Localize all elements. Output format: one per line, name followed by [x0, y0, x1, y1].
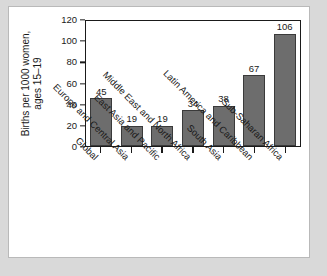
bar-value-label: 106: [277, 22, 293, 32]
y-tick-label: 60: [66, 79, 77, 89]
x-label-slot: Sub-Saharan Africa: [270, 153, 300, 253]
y-tick-label: 120: [61, 15, 77, 25]
x-label-slot: South Asia: [209, 153, 239, 253]
x-label-slot: Middle East and North Africa: [178, 153, 208, 253]
bar: [274, 34, 296, 146]
chart-page: { "chart_data": { "type": "bar", "title"…: [0, 0, 327, 276]
x-label-slot: Europe and Central Asia: [116, 153, 146, 253]
x-label-slot: East Asia and Pacific: [147, 153, 177, 253]
x-label-slot: Global: [85, 153, 115, 253]
y-axis: 020406080100120: [9, 20, 85, 147]
y-tick-label: 80: [66, 58, 77, 68]
y-tick-label: 100: [61, 36, 77, 46]
bar-slot: 106: [270, 21, 300, 146]
x-axis-labels: GlobalEurope and Central AsiaEast Asia a…: [85, 153, 301, 253]
bar-value-label: 67: [249, 64, 260, 74]
chart-card: Births per 1000 women, ages 15–19 020406…: [8, 6, 310, 258]
y-tick-label: 20: [66, 121, 77, 131]
x-label-slot: Latin America and Caribbean: [240, 153, 270, 253]
